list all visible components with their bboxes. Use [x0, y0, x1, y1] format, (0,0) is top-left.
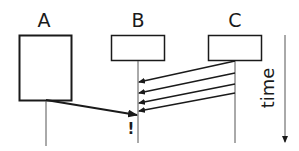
- conflict-marker: !: [128, 120, 135, 138]
- time-label: time: [257, 68, 278, 109]
- message-arrow-2: [139, 73, 235, 93]
- sequence-diagram: A B C ! time: [0, 0, 299, 151]
- message-arrow-1: [139, 61, 235, 82]
- message-arrow-a-to-b: [46, 100, 137, 115]
- participant-a-label: A: [38, 9, 51, 31]
- participant-c-label: C: [228, 9, 241, 31]
- participant-c-box: [209, 36, 262, 61]
- participant-b: B: [112, 9, 165, 143]
- message-arrow-3: [139, 84, 235, 103]
- participant-b-label: B: [131, 9, 144, 31]
- messages-c-to-b: [139, 61, 235, 111]
- message-arrow-4: [139, 93, 235, 111]
- participant-a-box: [20, 36, 72, 101]
- participant-c: C: [209, 9, 262, 143]
- participant-b-box: [112, 36, 165, 61]
- participant-a: A: [20, 9, 72, 146]
